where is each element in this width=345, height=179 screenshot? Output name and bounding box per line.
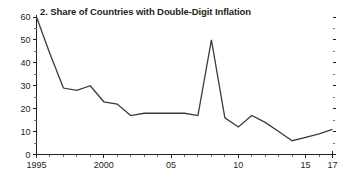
data-line-series-0: [37, 17, 333, 141]
y-tick-label: 30: [20, 81, 30, 91]
y-tick-label: 10: [20, 127, 30, 137]
x-axis-group: 1995200005101517: [26, 155, 337, 170]
x-tick-label: 17: [327, 160, 337, 170]
y-axis-group: 0102030405060: [20, 12, 36, 160]
chart-panel: 2. Share of Countries with Double-Digit …: [0, 0, 345, 179]
y-tick-label: 20: [20, 104, 30, 114]
y-tick-label: 50: [20, 35, 30, 45]
y-tick-label: 0: [25, 150, 30, 160]
y-tick-label: 40: [20, 58, 30, 68]
x-tick-label: 05: [166, 160, 176, 170]
right-axis-group: [333, 17, 337, 155]
x-tick-label: 10: [233, 160, 243, 170]
x-tick-label: 2000: [94, 160, 114, 170]
x-tick-label: 15: [301, 160, 311, 170]
y-tick-label: 60: [20, 12, 30, 22]
x-tick-label: 1995: [26, 160, 46, 170]
line-chart: 0102030405060 1995200005101517: [0, 0, 345, 179]
data-series-group: [37, 17, 333, 141]
